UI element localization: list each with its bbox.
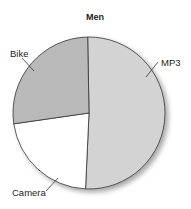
pie-slice-mp3 <box>86 37 165 189</box>
slice-label-camera: Camera <box>12 187 47 198</box>
pie-slices <box>13 37 165 189</box>
slice-label-mp3: MP3 <box>161 57 181 68</box>
slice-label-bike: Bike <box>10 48 28 59</box>
pie-slice-camera <box>14 113 89 189</box>
chart-title: Men <box>86 12 104 22</box>
pie-chart: Men MP3CameraBike <box>0 0 191 209</box>
